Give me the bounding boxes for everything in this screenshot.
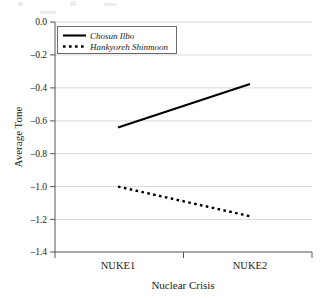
y-tick-label: –0.8 (29, 149, 47, 159)
x-tick-label-nuke1: NUKE1 (101, 260, 135, 271)
figure-container: 0.0 –0.2 –0.4 –0.6 –0.8 –1.0 –1.2 –1.4 A… (0, 0, 325, 298)
y-tick-label: 0.0 (35, 17, 47, 27)
x-axis-title: Nuclear Crisis (151, 279, 214, 291)
y-tick-label: –1.4 (29, 247, 47, 257)
legend-label-hankyoreh-shinmoon: Hankyoreh Shinmoon (89, 42, 168, 52)
line-chart: 0.0 –0.2 –0.4 –0.6 –0.8 –1.0 –1.2 –1.4 A… (0, 0, 325, 298)
legend: Chosun Ilbo Hankyoreh Shinmoon (58, 27, 177, 54)
y-axis-title: Average Tone (12, 106, 24, 167)
y-axis (50, 22, 55, 252)
x-tick-label-nuke2: NUKE2 (233, 260, 267, 271)
x-axis (55, 252, 312, 258)
legend-label-chosun-ilbo: Chosun Ilbo (90, 31, 135, 41)
y-tick-label: –1.0 (29, 182, 47, 192)
y-tick-label: –1.2 (29, 215, 47, 225)
y-tick-label: –0.6 (29, 116, 47, 126)
y-tick-label: –0.4 (29, 83, 47, 93)
y-tick-label: –0.2 (29, 50, 47, 60)
series-line-hankyoreh-shinmoon (118, 187, 250, 217)
y-tick-labels: 0.0 –0.2 –0.4 –0.6 –0.8 –1.0 –1.2 –1.4 (29, 17, 47, 257)
